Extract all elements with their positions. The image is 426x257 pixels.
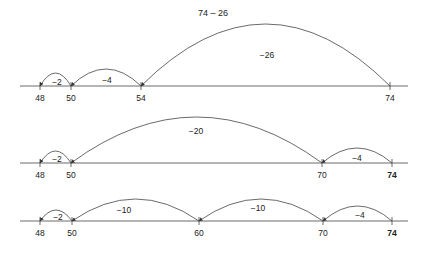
number-line-3: 4850607074−10−10−4−2 <box>20 199 408 238</box>
jump-label: −10 <box>251 203 266 213</box>
number-line-diagram: 48505474−26−4−248507074−20−4−24850607074… <box>0 0 426 257</box>
jump-label: −10 <box>117 205 132 215</box>
tick-label: 74 <box>385 93 395 103</box>
tick-label: 70 <box>318 228 328 238</box>
number-line-1: 48505474−26−4−2 <box>20 24 408 103</box>
jump-label: −26 <box>260 50 275 60</box>
tick-label: 50 <box>66 93 76 103</box>
tick-label: 60 <box>194 228 204 238</box>
jump-label: −2 <box>53 212 63 222</box>
jump-label: −4 <box>355 210 365 220</box>
jump-label: −2 <box>52 77 62 87</box>
tick-label: 48 <box>35 93 45 103</box>
tick-label: 54 <box>136 93 146 103</box>
tick-label: 50 <box>66 170 76 180</box>
tick-label: 48 <box>35 228 45 238</box>
jump-label: −4 <box>102 75 112 85</box>
tick-label: 70 <box>317 170 327 180</box>
tick-label: 50 <box>67 228 77 238</box>
jump-arc <box>72 199 199 221</box>
jump-label: −2 <box>52 154 62 164</box>
number-line-2: 48507074−20−4−2 <box>20 117 408 180</box>
number-lines-group: 48505474−26−4−248507074−20−4−24850607074… <box>20 24 408 238</box>
jump-label: −20 <box>189 126 204 136</box>
tick-label: 48 <box>35 170 45 180</box>
tick-label: 74 <box>387 170 397 180</box>
jump-label: −4 <box>352 153 362 163</box>
jump-arc <box>71 117 322 163</box>
tick-label: 74 <box>387 228 397 238</box>
